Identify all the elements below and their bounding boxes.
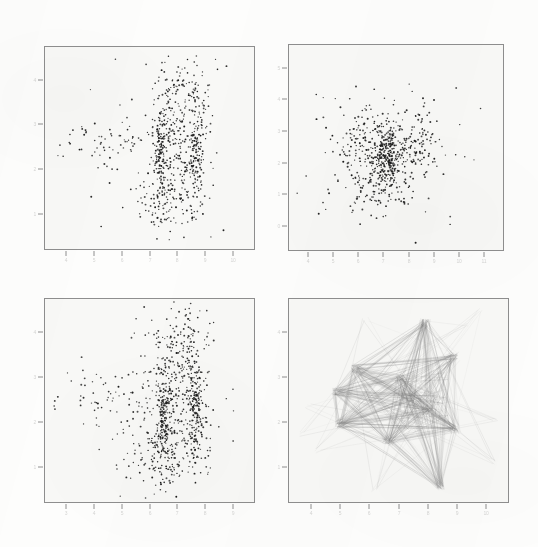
scatter-point (162, 449, 164, 451)
scatter-point (195, 151, 197, 153)
y-tick-label: 1 (277, 191, 280, 197)
scatter-point (198, 331, 200, 333)
scatter-point (194, 211, 195, 212)
scatter-point (201, 75, 202, 76)
scatter-point (166, 134, 168, 136)
scatter-point (110, 410, 112, 412)
scatter-point (434, 161, 435, 162)
scatter-point (168, 136, 170, 138)
scatter-point (384, 150, 386, 152)
scatter-point (165, 162, 167, 164)
scatter-point (195, 353, 197, 355)
scatter-point (367, 155, 369, 156)
scatter-point (157, 330, 159, 332)
scatter-point (159, 120, 161, 122)
scatter-point (414, 151, 416, 153)
scatter-point (195, 412, 197, 414)
scatter-point (459, 124, 460, 125)
scatter-point (129, 126, 130, 127)
network-edges-group (300, 308, 498, 491)
scatter-point (188, 348, 190, 350)
scatter-point (198, 188, 200, 189)
scatter-point (155, 395, 157, 397)
scatter-point (158, 172, 160, 174)
scatter-point (197, 129, 198, 130)
x-tick-label: 7 (398, 510, 401, 516)
scatter-point (141, 202, 143, 204)
scatter-point (97, 167, 99, 169)
scatter-point (405, 141, 407, 143)
scatter-point (160, 111, 162, 113)
scatter-point (184, 446, 186, 448)
scatter-point (85, 132, 87, 134)
scatter-point (158, 117, 160, 118)
scatter-point (167, 199, 169, 201)
scatter-point (182, 356, 184, 358)
scatter-point (193, 156, 195, 158)
scatter-point (171, 188, 173, 190)
scatter-point (122, 122, 123, 123)
x-tick-label: 10 (230, 257, 235, 263)
scatter-point (182, 398, 184, 400)
scatter-point (349, 129, 351, 131)
scatter-point (395, 155, 396, 156)
scatter-point (399, 125, 401, 127)
scatter-point (159, 144, 161, 146)
scatter-point (131, 150, 132, 151)
scatter-point (423, 106, 425, 108)
scatter-point (439, 139, 440, 140)
scatter-point (177, 66, 179, 68)
scatter-point (371, 174, 373, 176)
scatter-point (201, 121, 203, 123)
scatter-point (116, 464, 118, 466)
scatter-point (430, 137, 432, 139)
scatter-point (346, 155, 348, 157)
scatter-point (112, 439, 113, 440)
scatter-point (163, 153, 165, 155)
scatter-point (393, 127, 395, 128)
scatter-point (184, 366, 185, 367)
scatter-point (165, 468, 167, 470)
scatter-point (154, 120, 156, 122)
scatter-point (191, 437, 193, 438)
scatter-point (193, 160, 194, 161)
scatter-point (164, 390, 165, 391)
scatter-point (54, 408, 56, 410)
scatter-point (377, 155, 378, 156)
scatter-point (132, 411, 134, 413)
scatter-point (151, 414, 152, 415)
scatter-point (162, 383, 164, 385)
scatter-point (399, 142, 401, 144)
scatter-point (193, 148, 194, 149)
scatter-point (157, 190, 159, 191)
scatter-point (390, 142, 392, 144)
scatter-point (170, 398, 172, 400)
scatter-point (197, 422, 199, 424)
scatter-point (191, 433, 193, 435)
scatter-point (173, 131, 174, 132)
scatter-point (156, 161, 158, 163)
scatter-point (196, 387, 198, 389)
scatter-point (179, 193, 180, 194)
scatter-point (100, 377, 102, 379)
scatter-point (192, 381, 193, 382)
scatter-point (188, 82, 190, 84)
scatter-point (382, 154, 384, 156)
scatter-point (204, 339, 205, 340)
scatter-point (398, 198, 400, 200)
scatter-point (374, 145, 375, 146)
scatter-point (186, 167, 188, 169)
scatter-point (190, 369, 192, 371)
scatter-point (429, 140, 431, 142)
scatter-point (400, 157, 402, 158)
scatter-point (200, 201, 202, 203)
scatter-point (168, 458, 169, 459)
scatter-point (351, 165, 352, 166)
scatter-point (384, 177, 386, 179)
scatter-point (390, 145, 392, 146)
scatter-point (157, 136, 158, 137)
scatter-point (426, 171, 428, 173)
scatter-point (155, 484, 157, 486)
scatter-point (143, 181, 145, 183)
scatter-point (376, 217, 378, 219)
